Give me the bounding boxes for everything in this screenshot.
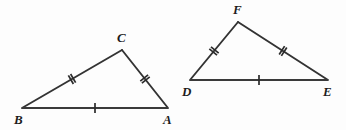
- congruent-triangles-figure: BCA DFE: [0, 0, 346, 130]
- side-bc: [22, 50, 122, 108]
- side-fe: [238, 22, 328, 80]
- vertex-label-c: C: [117, 30, 126, 45]
- triangle-def: DFE: [181, 2, 332, 99]
- geometry-canvas: BCA DFE: [0, 0, 346, 130]
- vertex-label-b: B: [13, 112, 23, 127]
- vertex-label-d: D: [181, 84, 192, 99]
- vertex-label-a: A: [162, 112, 172, 127]
- side-df: [190, 22, 238, 80]
- vertex-label-f: F: [232, 2, 242, 17]
- vertex-label-e: E: [322, 84, 332, 99]
- side-ca: [122, 50, 168, 108]
- triangle-abc: BCA: [13, 30, 172, 127]
